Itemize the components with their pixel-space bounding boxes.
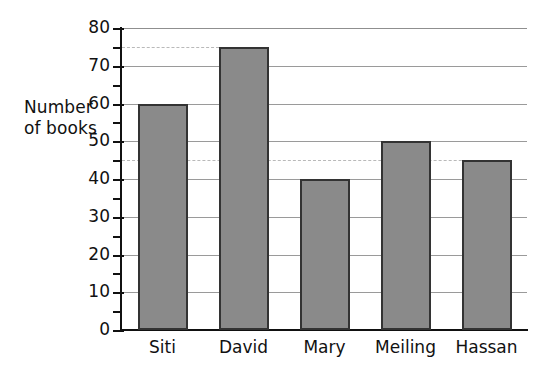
y-tick-minor-25: [113, 236, 121, 238]
gridline-70: [122, 66, 527, 67]
bar-mary: [300, 179, 350, 330]
y-tick-label-20: 20: [48, 246, 110, 263]
y-tick-major-10: [113, 292, 124, 294]
y-tick-label-80: 80: [48, 19, 110, 36]
y-tick-major-50: [113, 141, 124, 143]
x-label-meiling: Meiling: [365, 338, 446, 356]
bar-chart: Number of books 01020304050607080 SitiDa…: [0, 0, 550, 376]
y-tick-label-50: 50: [48, 132, 110, 149]
dashed-line-75: [122, 47, 219, 48]
y-tick-major-0: [113, 330, 124, 332]
y-tick-major-80: [113, 28, 124, 30]
x-label-siti: Siti: [122, 338, 203, 356]
bar-hassan: [462, 160, 512, 330]
x-label-hassan: Hassan: [446, 338, 527, 356]
y-tick-minor-15: [113, 273, 121, 275]
y-tick-major-20: [113, 255, 124, 257]
y-tick-label-10: 10: [48, 283, 110, 300]
y-tick-minor-45: [113, 160, 121, 162]
y-tick-label-0: 0: [48, 321, 110, 338]
bar-meiling: [381, 141, 431, 330]
y-tick-minor-75: [113, 47, 121, 49]
y-tick-label-60: 60: [48, 95, 110, 112]
x-label-mary: Mary: [284, 338, 365, 356]
y-tick-minor-55: [113, 122, 121, 124]
y-tick-label-70: 70: [48, 57, 110, 74]
y-tick-minor-35: [113, 198, 121, 200]
y-tick-minor-5: [113, 311, 121, 313]
y-tick-label-30: 30: [48, 208, 110, 225]
y-tick-major-70: [113, 66, 124, 68]
y-tick-major-40: [113, 179, 124, 181]
y-tick-minor-65: [113, 85, 121, 87]
y-tick-major-60: [113, 104, 124, 106]
x-label-david: David: [203, 338, 284, 356]
y-tick-major-30: [113, 217, 124, 219]
y-tick-label-40: 40: [48, 170, 110, 187]
bar-siti: [138, 104, 188, 331]
gridline-80: [122, 28, 527, 29]
bar-david: [219, 47, 269, 330]
